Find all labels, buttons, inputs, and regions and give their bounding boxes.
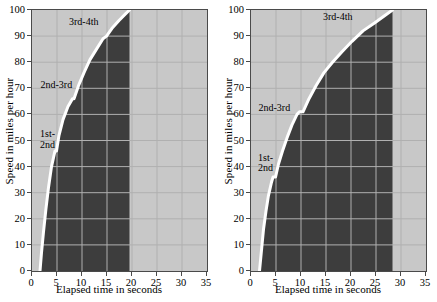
- y-axis-label-text: Speed in miles per hour: [3, 78, 15, 185]
- shift-label: 1st- 2nd: [40, 129, 55, 150]
- y-tick-mark: [27, 35, 31, 36]
- y-tick-mark: [27, 9, 31, 10]
- y-tick-mark: [27, 140, 31, 141]
- y-tick-label: 20: [234, 212, 245, 223]
- x-tick-label: 30: [176, 277, 187, 288]
- y-tick-mark: [27, 192, 31, 193]
- x-tick-mark: [131, 272, 132, 276]
- x-tick-label: 15: [101, 277, 112, 288]
- x-tick-mark: [300, 272, 301, 276]
- x-tick-label: 35: [201, 277, 212, 288]
- x-tick-mark: [425, 272, 426, 276]
- y-tick-mark: [246, 87, 250, 88]
- y-tick-mark: [27, 61, 31, 62]
- y-tick-label: 50: [234, 134, 245, 145]
- x-tick-mark: [81, 272, 82, 276]
- y-tick-label: 10: [234, 238, 245, 249]
- y-tick-mark: [246, 9, 250, 10]
- y-tick-label: 80: [15, 56, 26, 67]
- plot-canvas: [251, 10, 426, 271]
- x-tick-label: 5: [272, 277, 277, 288]
- x-tick-mark: [106, 272, 107, 276]
- shift-label: 1st- 2nd: [258, 153, 273, 174]
- y-tick-mark: [27, 218, 31, 219]
- y-tick-label: 30: [15, 186, 26, 197]
- y-tick-label: 90: [234, 30, 245, 41]
- y-tick-label: 70: [15, 82, 26, 93]
- y-tick-mark: [246, 244, 250, 245]
- x-tick-label: 0: [28, 277, 33, 288]
- x-tick-label: 10: [295, 277, 306, 288]
- shift-label: 2nd-3rd: [41, 80, 73, 91]
- x-tick-mark: [275, 272, 276, 276]
- y-tick-label: 20: [15, 212, 26, 223]
- y-tick-label: 30: [234, 186, 245, 197]
- y-tick-label: 0: [20, 265, 25, 276]
- x-tick-mark: [400, 272, 401, 276]
- y-tick-label: 100: [228, 4, 244, 15]
- x-tick-mark: [31, 272, 32, 276]
- x-tick-label: 20: [345, 277, 356, 288]
- y-tick-mark: [27, 113, 31, 114]
- x-tick-mark: [156, 272, 157, 276]
- y-tick-label: 40: [234, 160, 245, 171]
- y-tick-mark: [246, 113, 250, 114]
- x-tick-mark: [206, 272, 207, 276]
- x-tick-mark: [250, 272, 251, 276]
- shift-label: 3rd-4th: [69, 17, 98, 28]
- acceleration-figure: Speed in miles per hourElapsed time in s…: [0, 0, 437, 302]
- y-tick-label: 100: [9, 4, 25, 15]
- plot-canvas: [32, 10, 207, 271]
- y-tick-mark: [246, 61, 250, 62]
- x-tick-label: 25: [370, 277, 381, 288]
- x-tick-label: 20: [126, 277, 137, 288]
- x-tick-label: 0: [247, 277, 252, 288]
- x-tick-mark: [375, 272, 376, 276]
- y-tick-mark: [27, 270, 31, 271]
- chart-right: Speed in miles per hourElapsed time in s…: [219, 0, 437, 302]
- x-tick-mark: [56, 272, 57, 276]
- y-tick-mark: [246, 218, 250, 219]
- y-axis-label-text: Speed in miles per hour: [222, 78, 234, 185]
- chart-left: Speed in miles per hourElapsed time in s…: [0, 0, 218, 302]
- x-tick-label: 15: [320, 277, 331, 288]
- x-tick-mark: [181, 272, 182, 276]
- y-tick-mark: [246, 35, 250, 36]
- plot-area: 1st- 2nd2nd-3rd3rd-4th: [31, 9, 208, 272]
- x-tick-label: 25: [151, 277, 162, 288]
- y-tick-mark: [27, 166, 31, 167]
- x-tick-label: 35: [420, 277, 431, 288]
- plot-area: 1st- 2nd2nd-3rd3rd-4th: [250, 9, 427, 272]
- y-tick-mark: [27, 244, 31, 245]
- shift-label: 2nd-3rd: [259, 103, 291, 114]
- x-tick-label: 5: [53, 277, 58, 288]
- y-tick-mark: [246, 192, 250, 193]
- y-tick-label: 50: [15, 134, 26, 145]
- x-tick-label: 30: [395, 277, 406, 288]
- y-tick-mark: [246, 270, 250, 271]
- y-tick-label: 90: [15, 30, 26, 41]
- y-tick-label: 80: [234, 56, 245, 67]
- x-tick-mark: [325, 272, 326, 276]
- y-tick-label: 0: [239, 265, 244, 276]
- shift-label: 3rd-4th: [323, 12, 352, 23]
- x-tick-mark: [350, 272, 351, 276]
- y-tick-label: 10: [15, 238, 26, 249]
- y-tick-mark: [246, 140, 250, 141]
- y-tick-label: 60: [234, 108, 245, 119]
- y-tick-label: 70: [234, 82, 245, 93]
- y-tick-mark: [27, 87, 31, 88]
- y-tick-label: 60: [15, 108, 26, 119]
- y-tick-label: 40: [15, 160, 26, 171]
- y-tick-mark: [246, 166, 250, 167]
- x-tick-label: 10: [76, 277, 87, 288]
